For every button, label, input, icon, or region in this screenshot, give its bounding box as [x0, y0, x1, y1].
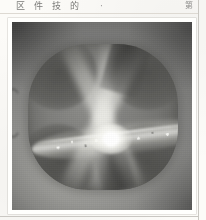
- page-rule-right: [198, 0, 199, 220]
- scanned-page: 区 件 技 的 · 第: [0, 0, 206, 220]
- caption-characters: 区 件 技 的 ·: [16, 2, 103, 11]
- page-rule-bottom: [0, 216, 199, 217]
- caption-separator-dot: ·: [100, 2, 103, 11]
- caption-char-2: 件: [34, 2, 43, 11]
- caption-char-3: 技: [52, 2, 61, 11]
- page-rule-top: [0, 13, 199, 14]
- caption-row: 区 件 技 的 · 第: [0, 0, 199, 11]
- caption-char-1: 区: [16, 2, 25, 11]
- plate-vignette: [12, 22, 192, 210]
- photographic-plate: [12, 22, 192, 210]
- caption-char-4: 的: [70, 2, 79, 11]
- caption-right-mark: 第: [185, 2, 193, 10]
